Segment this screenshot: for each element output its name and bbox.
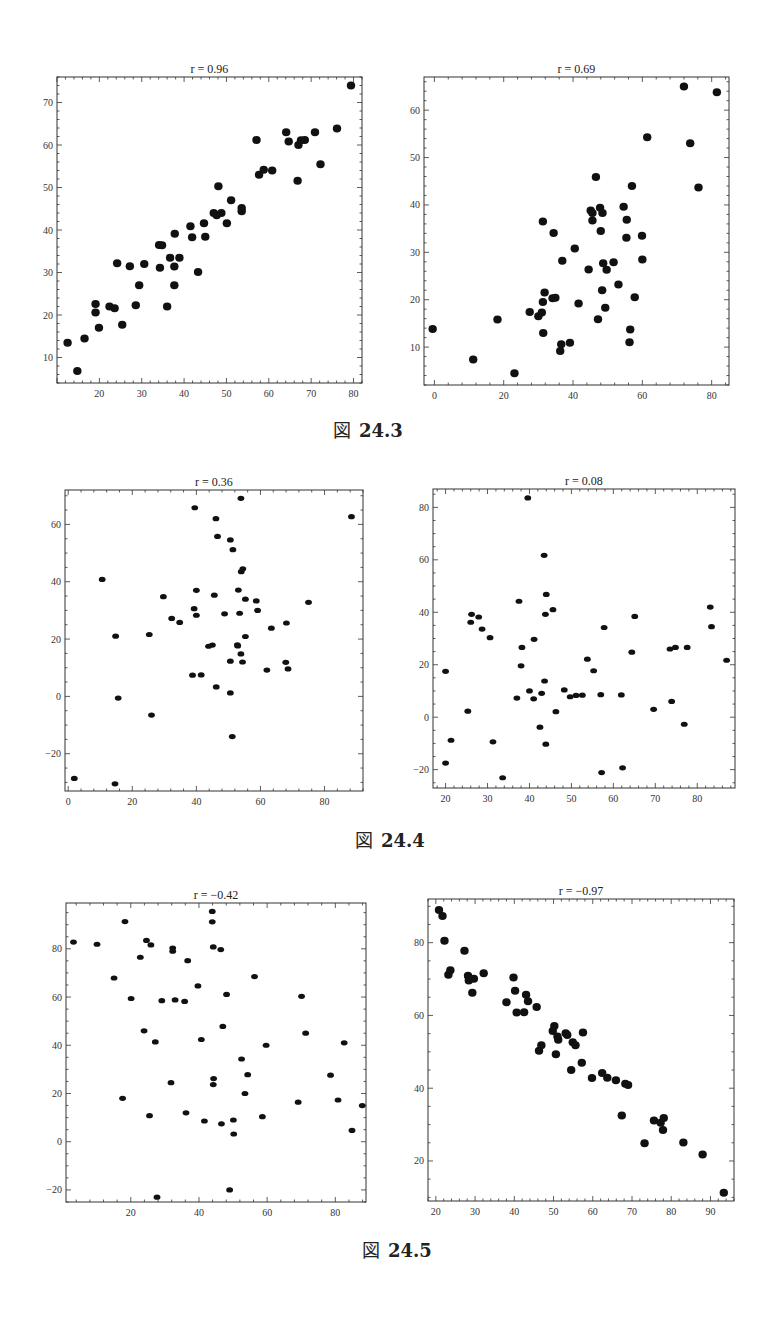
data-point (184, 958, 191, 963)
data-point (679, 1138, 687, 1146)
data-point (132, 301, 140, 309)
data-point (191, 606, 198, 611)
data-point (628, 182, 636, 190)
data-point (571, 1041, 579, 1049)
data-point (198, 672, 205, 677)
data-point (282, 660, 289, 665)
data-point (259, 1114, 266, 1119)
data-point (316, 160, 324, 168)
data-point (686, 139, 694, 147)
data-point (626, 326, 634, 334)
data-point (285, 666, 292, 671)
y-tick-label: 60 (43, 140, 53, 151)
data-point (175, 254, 183, 262)
data-point (283, 620, 290, 625)
scatter-plot-r-0-36: r = 0.36020406080−200204060 (25, 470, 373, 811)
data-point (160, 594, 167, 599)
data-point (584, 657, 591, 662)
data-point (638, 255, 646, 263)
data-point (217, 947, 224, 952)
data-point (551, 294, 559, 302)
data-point (541, 553, 548, 558)
data-point (235, 587, 242, 592)
data-point (311, 128, 319, 136)
data-point (428, 325, 436, 333)
x-tick-label: 40 (524, 793, 534, 804)
data-point (118, 321, 126, 329)
data-point (119, 1096, 126, 1101)
data-point (543, 592, 550, 597)
x-tick-label: 30 (137, 388, 147, 399)
data-point (680, 82, 688, 90)
data-point (660, 1114, 668, 1122)
y-tick-label: 60 (51, 519, 61, 530)
data-point (552, 709, 559, 714)
y-tick-label: 30 (410, 247, 420, 258)
data-point (601, 625, 608, 630)
data-point (137, 955, 144, 960)
data-point (567, 694, 574, 699)
data-point (619, 203, 627, 211)
data-point (349, 1128, 356, 1133)
data-point (594, 315, 602, 323)
data-point (252, 136, 260, 144)
data-point (574, 299, 582, 307)
data-point (475, 614, 482, 619)
data-point (214, 182, 222, 190)
data-point (122, 919, 129, 924)
data-point (623, 216, 631, 224)
data-point (640, 1139, 648, 1147)
data-point (194, 268, 202, 276)
data-point (359, 1103, 366, 1108)
data-point (713, 88, 721, 96)
y-tick-label: 80 (414, 937, 424, 948)
y-tick-label: 60 (419, 554, 429, 565)
data-point (80, 334, 88, 342)
data-point (468, 989, 476, 997)
data-point (470, 975, 478, 983)
data-point (169, 949, 176, 954)
data-point (230, 1117, 237, 1122)
data-point (668, 699, 675, 704)
x-tick-label: 70 (306, 388, 316, 399)
data-point (305, 600, 312, 605)
plot-frame (433, 489, 735, 788)
data-point (520, 1008, 528, 1016)
x-tick-label: 30 (470, 1206, 480, 1217)
data-point (223, 992, 230, 997)
data-point (469, 355, 477, 363)
data-point (518, 663, 525, 668)
data-point (148, 712, 155, 717)
data-point (597, 692, 604, 697)
x-tick-label: 50 (221, 388, 231, 399)
data-point (295, 1100, 302, 1105)
x-tick-label: 20 (499, 390, 509, 401)
data-points (428, 82, 721, 377)
x-tick-label: 70 (627, 1206, 637, 1217)
data-point (493, 316, 501, 324)
x-tick-label: 60 (588, 1206, 598, 1217)
data-point (597, 227, 605, 235)
y-tick-label: 10 (410, 342, 420, 353)
data-point (442, 760, 449, 765)
figure-caption-number: 24.3 (359, 420, 403, 441)
data-point (226, 1187, 233, 1192)
data-point (524, 495, 531, 500)
figure-caption-24-3: 図24.3 (333, 416, 403, 442)
scatter-plot-r-neg-0-42: r = −0.4220406080−20020406080 (26, 883, 376, 1222)
data-point (141, 1028, 148, 1033)
data-point (201, 1118, 208, 1123)
data-point (111, 975, 118, 980)
data-point (579, 1029, 587, 1037)
data-point (302, 1031, 309, 1036)
data-point (242, 634, 249, 639)
data-point (603, 1074, 611, 1082)
data-point (578, 1059, 586, 1067)
data-point (128, 996, 135, 1001)
data-point (723, 658, 730, 663)
data-point (227, 659, 234, 664)
data-point (95, 324, 103, 332)
data-point (619, 765, 626, 770)
data-point (539, 298, 547, 306)
x-tick-label: 60 (608, 793, 618, 804)
